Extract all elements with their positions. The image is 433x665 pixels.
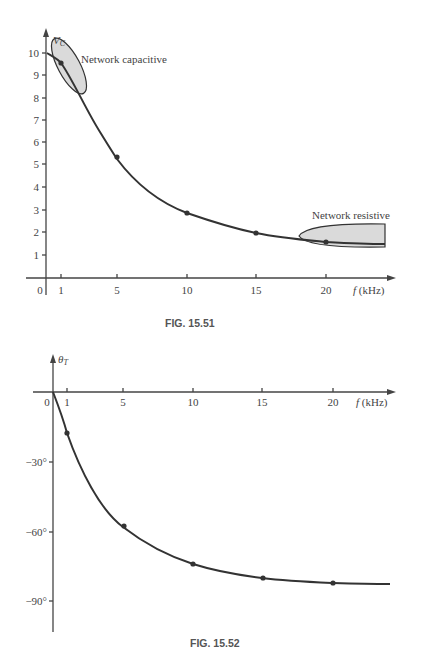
y-tick-label: 9 <box>34 69 40 81</box>
y-tick-label: 6 <box>34 136 40 148</box>
y-axis-label: θT <box>58 353 68 367</box>
y-tick-label: −90° <box>25 595 47 607</box>
x-tick-label: 10 <box>188 396 200 408</box>
x-tick-label: 1 <box>58 284 64 296</box>
y-axis-label: VC <box>53 34 66 48</box>
data-points <box>58 60 328 244</box>
capacitive-region <box>45 33 94 98</box>
y-tick-label: 7 <box>34 114 40 126</box>
origin-label: 0 <box>44 396 50 408</box>
x-tick-label: 20 <box>328 396 340 408</box>
x-tick-label: 15 <box>251 284 263 296</box>
y-tick-label: 1 <box>34 249 40 261</box>
y-tick-label: −60° <box>25 526 47 538</box>
theta-curve <box>53 392 390 584</box>
figure-caption: FIG. 15.51 <box>165 317 215 329</box>
y-tick-label: 5 <box>34 158 40 170</box>
y-tick-label: 3 <box>34 204 40 216</box>
y-axis-arrow-icon <box>50 354 56 363</box>
x-tick-label: 10 <box>182 284 194 296</box>
x-tick-label: 5 <box>120 396 126 408</box>
y-axis-arrow-icon <box>43 28 49 37</box>
x-axis-label: f (kHz) <box>353 284 385 297</box>
x-tick-label: 15 <box>257 396 269 408</box>
y-tick-label: 4 <box>34 181 40 193</box>
y-tick-label: 8 <box>34 92 40 104</box>
figure-caption: FIG. 15.52 <box>190 637 240 649</box>
chart-vc-vs-frequency: 1 2 3 4 5 6 7 8 9 10 0 1 5 10 15 20 VC f… <box>26 28 396 329</box>
chart-theta-vs-frequency: 0 1 5 10 15 20 −30° −60° −90° θT f (kHz)… <box>25 353 396 649</box>
annotation-network-capacitive: Network capacitive <box>81 53 167 65</box>
x-axis-label: f (kHz) <box>356 396 388 409</box>
x-axis-arrow-icon <box>387 389 396 395</box>
x-tick-label: 5 <box>114 284 120 296</box>
y-tick-label: 2 <box>34 226 40 238</box>
x-tick-label: 20 <box>321 284 333 296</box>
x-tick-label: 1 <box>64 396 70 408</box>
annotation-network-resistive: Network resistive <box>312 209 390 221</box>
y-tick-label: 10 <box>28 47 40 59</box>
origin-label: 0 <box>37 284 43 296</box>
figure-canvas: 1 2 3 4 5 6 7 8 9 10 0 1 5 10 15 20 VC f… <box>0 0 433 665</box>
y-tick-label: −30° <box>25 456 47 468</box>
x-axis-arrow-icon <box>387 275 396 281</box>
